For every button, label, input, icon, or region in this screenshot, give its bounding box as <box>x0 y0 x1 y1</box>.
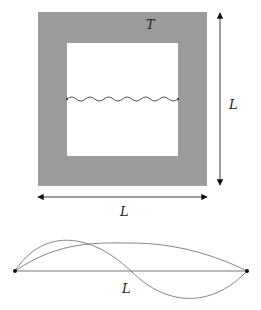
horizontal-dimension-label: L <box>119 204 129 219</box>
string-length-label: L <box>121 281 131 296</box>
vertical-dimension-label: L <box>228 97 238 112</box>
mode-second-harmonic <box>15 240 247 298</box>
wave-end-left <box>66 98 68 100</box>
mode-fundamental <box>15 243 247 271</box>
wave-end-right <box>177 98 179 100</box>
string-modes-diagram: L <box>13 240 249 298</box>
wall-temperature-label: T <box>146 17 156 32</box>
figure-canvas: T L L L <box>0 0 261 310</box>
string-end-right <box>245 269 249 273</box>
string-end-left <box>13 269 17 273</box>
